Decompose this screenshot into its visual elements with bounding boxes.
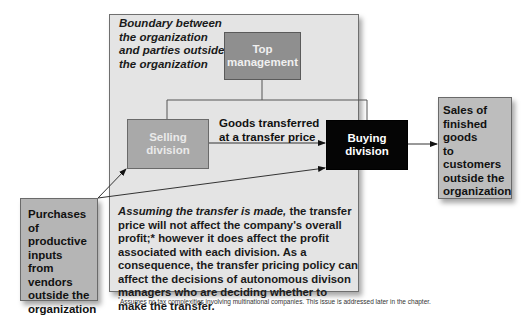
edge-label-line: Goods transferred <box>219 116 319 130</box>
node-label: finished <box>443 118 511 132</box>
selling-division-node: Selling division <box>127 119 209 169</box>
node-label: productive <box>28 235 97 249</box>
top-management-node: Top management <box>224 32 301 80</box>
note-lead: Assuming the transfer is made, <box>118 205 286 217</box>
node-label: outside the <box>28 289 97 303</box>
node-label: Selling <box>146 131 189 145</box>
node-label: Top <box>227 43 298 57</box>
node-label: from vendors <box>28 262 97 289</box>
node-label: inputs <box>28 249 97 263</box>
node-label: outside the <box>443 172 511 186</box>
edge-label-line: at a transfer price <box>219 130 319 144</box>
transfer-edge-label: Goods transferred at a transfer price <box>219 116 319 144</box>
boundary-label-line: and parties outside <box>119 44 239 58</box>
footnote: *Assumes no tax complexities involving m… <box>118 295 438 306</box>
boundary-label: Boundary between the organization and pa… <box>119 17 239 71</box>
node-label: division <box>146 144 189 158</box>
boundary-label-line: the organization <box>119 58 239 72</box>
purchases-from-vendors-node: Purchases of productive inputs from vend… <box>20 198 98 301</box>
node-label: Buying <box>345 132 388 146</box>
node-label: goods <box>443 131 511 145</box>
node-label: organization <box>443 185 511 199</box>
node-label: to customers <box>443 145 511 172</box>
buying-division-node: Buying division <box>326 120 408 170</box>
sales-to-customers-node: Sales of finished goods to customers out… <box>438 97 512 199</box>
node-label: division <box>345 145 388 159</box>
footnote-text: Assumes no tax complexities involving mu… <box>120 298 431 305</box>
boundary-label-line: the organization <box>119 31 239 45</box>
boundary-label-line: Boundary between <box>119 17 239 31</box>
node-label: Sales of <box>443 104 511 118</box>
node-label: Purchases of <box>28 208 97 235</box>
node-label: organization <box>28 303 97 317</box>
node-label: management <box>227 56 298 70</box>
